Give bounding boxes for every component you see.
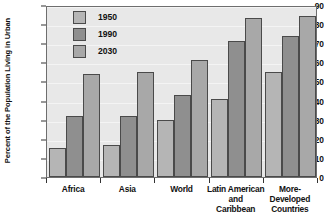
x-tick-mark [46, 178, 47, 183]
bar-2030-latin-american-and-caribbean[interactable] [245, 18, 262, 177]
legend-label: 1990 [98, 30, 117, 39]
bar-1950-world[interactable] [157, 120, 174, 177]
legend-swatch-icon [73, 28, 86, 41]
bar-group [264, 7, 318, 177]
x-tick-mark [317, 178, 318, 183]
bar-2030-more-developed-countries[interactable] [299, 16, 316, 177]
legend-item-1950[interactable]: 1950 [73, 9, 153, 25]
x-tick-mark [154, 178, 155, 183]
x-axis-label: Africa [42, 184, 104, 194]
x-tick-mark [100, 178, 101, 183]
x-axis-label-line: Asia [96, 184, 158, 194]
bar-1950-more-developed-countries[interactable] [265, 72, 282, 177]
x-tick-mark [263, 178, 264, 183]
x-axis-label-line: World [150, 184, 212, 194]
x-axis-label: More-DevelopedCountries [259, 184, 321, 214]
legend-swatch-icon [73, 45, 86, 58]
x-axis-label: Latin AmericanandCaribbean [205, 184, 267, 214]
bar-1990-asia[interactable] [120, 116, 137, 177]
legend-item-2030[interactable]: 2030 [73, 43, 153, 59]
x-axis-label: World [150, 184, 212, 194]
y-axis-title: Percent of the Population Living in Urba… [0, 0, 16, 180]
bar-2030-africa[interactable] [83, 74, 100, 177]
y-axis-title-text: Percent of the Population Living in Urba… [4, 17, 13, 162]
legend-label: 1950 [98, 13, 117, 22]
bar-1950-asia[interactable] [103, 145, 120, 177]
x-axis-label-line: Africa [42, 184, 104, 194]
x-axis-label-line: Latin American [205, 184, 267, 194]
legend-label: 2030 [98, 47, 117, 56]
bar-group [155, 7, 209, 177]
x-tick-mark [209, 178, 210, 183]
bar-1990-africa[interactable] [66, 116, 83, 177]
x-axis-label-line: Caribbean [205, 204, 267, 214]
bar-1990-latin-american-and-caribbean[interactable] [228, 41, 245, 177]
legend: 195019902030 [73, 9, 153, 60]
x-axis-label-line: and [205, 194, 267, 204]
bar-1990-more-developed-countries[interactable] [282, 36, 299, 177]
x-axis-label-line: More- [259, 184, 321, 194]
legend-swatch-icon [73, 11, 86, 24]
x-axis-label: Asia [96, 184, 158, 194]
bar-2030-asia[interactable] [137, 72, 154, 177]
bar-chart-figure: Percent of the Population Living in Urba… [0, 0, 324, 223]
bar-1990-world[interactable] [174, 95, 191, 177]
legend-item-1990[interactable]: 1990 [73, 26, 153, 42]
bar-group [210, 7, 264, 177]
bar-1950-latin-american-and-caribbean[interactable] [211, 99, 228, 177]
x-axis-label-line: Countries [259, 204, 321, 214]
bar-1950-africa[interactable] [49, 148, 66, 177]
x-axis-label-line: Developed [259, 194, 321, 204]
bar-2030-world[interactable] [191, 60, 208, 177]
